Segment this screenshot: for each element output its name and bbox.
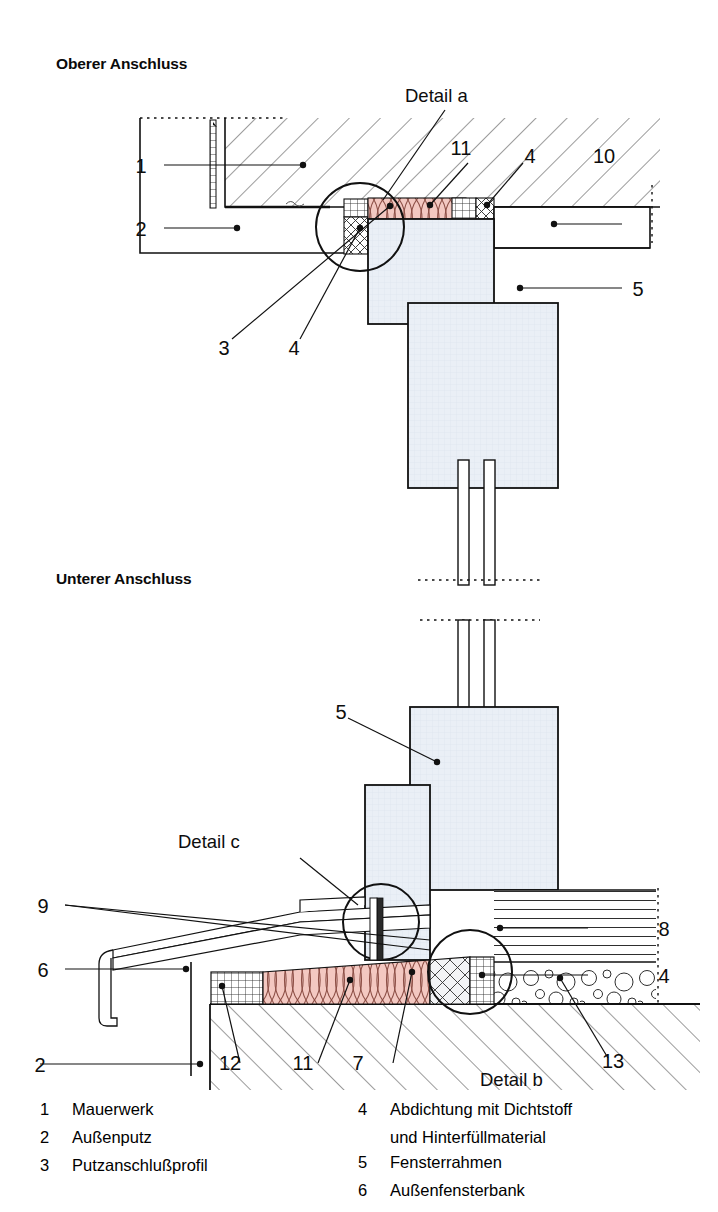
element-10-upper (494, 207, 650, 248)
legend-number-3: 3 (40, 1156, 72, 1175)
label-upper-11: 11 (451, 137, 472, 159)
legend-column-left: 1 Mauerwerk 2 Außenputz 3 Putzanschlußpr… (40, 1100, 208, 1184)
backing-material-lower (470, 957, 494, 1004)
label-lower-6: 6 (37, 959, 48, 981)
detail-drawing-canvas: 1 2 3 4 4 5 10 11 Detail a (0, 0, 718, 1212)
concrete-layer (494, 962, 656, 1004)
legend-number-2: 2 (40, 1128, 72, 1147)
legend-number-5: 5 (358, 1153, 390, 1172)
label-upper-4-right: 4 (524, 145, 535, 167)
sealing-strip-detail-c (370, 898, 383, 960)
detail-b-label: Detail b (480, 1069, 543, 1090)
legend-item-3: 3 Putzanschlußprofil (40, 1156, 208, 1181)
label-upper-4-left: 4 (288, 337, 299, 359)
label-upper-5: 5 (632, 278, 643, 300)
label-lower-8: 8 (658, 918, 669, 940)
insulation-upper (368, 198, 466, 219)
legend-text-4: Abdichtung mit Dichtstoff (390, 1100, 572, 1119)
plaster-stop-profile (210, 120, 216, 208)
legend-item-2: 2 Außenputz (40, 1128, 208, 1153)
backing-material-upper-left (344, 199, 368, 217)
element-12-block (211, 972, 263, 1004)
insulation-lower (263, 960, 430, 1004)
window-frame-lower-sash (410, 707, 558, 890)
label-lower-9: 9 (37, 895, 48, 917)
label-upper-3: 3 (218, 337, 229, 359)
legend-column-right: 4 Abdichtung mit Dichtstoff und Hinterfü… (358, 1100, 572, 1209)
label-lower-5: 5 (335, 701, 346, 723)
legend-number-1: 1 (40, 1100, 72, 1119)
legend-text-3: Putzanschlußprofil (72, 1156, 208, 1175)
label-lower-2: 2 (34, 1054, 45, 1076)
label-upper-10: 10 (593, 145, 615, 167)
drawing-sheet: Oberer Anschluss Unterer Anschluss (0, 0, 718, 1212)
legend-number-4: 4 (358, 1100, 390, 1119)
legend-item-4: 4 Abdichtung mit Dichtstoff (358, 1100, 572, 1125)
legend: 1 Mauerwerk 2 Außenputz 3 Putzanschlußpr… (0, 1100, 718, 1212)
label-lower-7: 7 (352, 1052, 363, 1074)
legend-item-1: 1 Mauerwerk (40, 1100, 208, 1125)
element-8-layer (494, 890, 656, 962)
legend-text-4-continued: und Hinterfüllmaterial (390, 1128, 572, 1153)
section-title-upper: Oberer Anschluss (56, 55, 187, 73)
legend-item-6: 6 Außenfensterbank (358, 1181, 572, 1206)
backing-material-upper-right (452, 198, 476, 219)
label-upper-1: 1 (135, 155, 146, 177)
sealant-upper-right (476, 198, 494, 219)
legend-item-5: 5 Fensterrahmen (358, 1153, 572, 1178)
detail-c-label: Detail c (178, 831, 240, 852)
label-lower-4: 4 (658, 965, 669, 987)
upper-detail-group: 1 2 3 4 4 5 10 11 Detail a (135, 85, 660, 585)
legend-text-5: Fensterrahmen (390, 1153, 502, 1172)
legend-text-1: Mauerwerk (72, 1100, 154, 1119)
masonry-lower (210, 1004, 700, 1090)
label-lower-12: 12 (219, 1052, 241, 1074)
section-title-lower: Unterer Anschluss (56, 570, 192, 588)
legend-text-6: Außenfensterbank (390, 1181, 525, 1200)
detail-a-label: Detail a (405, 85, 468, 106)
label-upper-2: 2 (135, 218, 146, 240)
window-frame-upper-sash (408, 303, 558, 488)
label-lower-13: 13 (602, 1050, 624, 1072)
lower-detail-group: 2 4 5 6 7 8 9 11 12 13 Detail c Detail b (34, 620, 700, 1090)
legend-number-6: 6 (358, 1181, 390, 1200)
label-lower-11: 11 (293, 1052, 314, 1074)
legend-text-2: Außenputz (72, 1128, 152, 1147)
